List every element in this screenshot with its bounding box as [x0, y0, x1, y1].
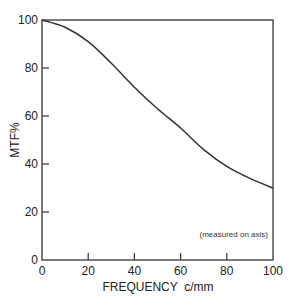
- y-axis-ticks: 020406080100: [18, 13, 49, 267]
- plot-frame: [42, 20, 273, 260]
- x-axis-ticks: 020406080100: [39, 253, 284, 278]
- annotation-measured-on-axis: (measured on axis): [200, 230, 269, 239]
- x-tick-label: 100: [263, 264, 283, 278]
- y-axis-title: MTF%: [8, 122, 22, 158]
- x-tick-label: 80: [220, 264, 234, 278]
- y-tick-label: 40: [25, 157, 39, 171]
- x-tick-label: 60: [174, 264, 188, 278]
- y-tick-label: 80: [25, 61, 39, 75]
- y-tick-label: 20: [25, 205, 39, 219]
- y-tick-label: 0: [31, 253, 38, 267]
- y-tick-label: 60: [25, 109, 39, 123]
- axes-box: [42, 20, 273, 260]
- y-tick-label: 100: [18, 13, 38, 27]
- x-tick-label: 0: [39, 264, 46, 278]
- mtf-curve: [42, 20, 273, 188]
- x-tick-label: 20: [82, 264, 96, 278]
- mtf-chart: 020406080100 020406080100 (measured on a…: [0, 0, 293, 305]
- x-tick-label: 40: [128, 264, 142, 278]
- x-axis-title: FREQUENCY c/mm: [102, 280, 213, 294]
